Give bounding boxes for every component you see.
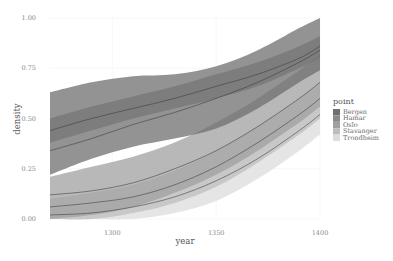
y-axis-title: density (12, 103, 22, 134)
y-tick-label: 0.00 (22, 215, 36, 223)
y-tick-label: 0.75 (22, 64, 36, 72)
density-chart: 0.000.250.500.751.00 130013501400 year d… (0, 0, 393, 261)
y-tick-label: 0.25 (22, 165, 36, 173)
x-tick-label: 1300 (104, 229, 121, 237)
legend-title: point (333, 97, 355, 106)
y-axis-ticks: 0.000.250.500.751.00 (22, 14, 36, 223)
x-tick-label: 1400 (312, 229, 329, 237)
legend-swatch-oslo (333, 122, 340, 128)
legend-swatch-stavanger (333, 128, 340, 134)
legend-label-trondheim: Trondheim (343, 134, 379, 142)
x-axis-ticks: 130013501400 (104, 229, 328, 237)
x-axis-title: year (175, 236, 196, 246)
legend-swatch-trondheim (333, 135, 340, 141)
x-tick-label: 1350 (208, 229, 225, 237)
y-tick-label: 1.00 (22, 14, 36, 22)
legend-swatch-bergen (333, 109, 340, 115)
legend-swatch-hamar (333, 115, 340, 121)
y-tick-label: 0.50 (22, 115, 36, 123)
legend-keys: BergenHamarOsloStavangerTrondheim (333, 108, 379, 142)
legend: point BergenHamarOsloStavangerTrondheim (333, 97, 379, 142)
